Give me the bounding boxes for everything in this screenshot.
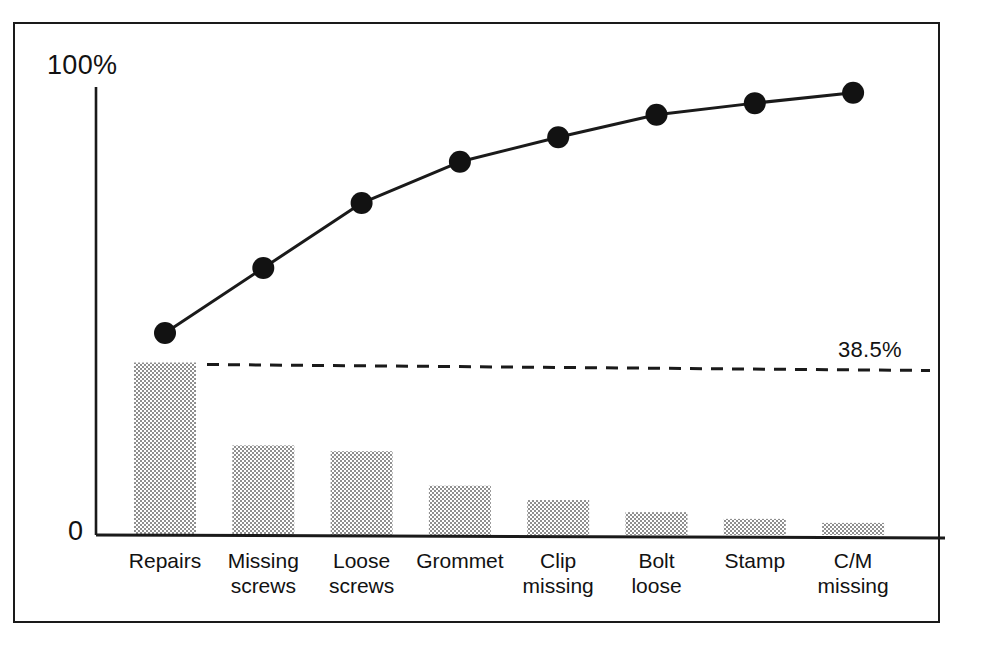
y-axis-top-label: 100% (47, 50, 117, 81)
cumulative-marker (646, 104, 668, 126)
bar (724, 519, 786, 535)
cumulative-marker (449, 151, 471, 173)
x-axis-line (96, 535, 945, 538)
cumulative-marker (252, 257, 274, 279)
bar (331, 451, 393, 535)
bar (134, 363, 196, 535)
threshold-dashed-line (207, 365, 930, 371)
cumulative-marker (744, 92, 766, 114)
bar (822, 523, 884, 535)
bar (527, 500, 589, 535)
threshold-value-label: 38.5% (838, 337, 902, 363)
bar (232, 445, 294, 535)
cumulative-marker (547, 126, 569, 148)
category-label: C/M missing (773, 548, 933, 598)
bar (429, 486, 491, 535)
cumulative-markers (154, 82, 864, 344)
bar-series (134, 363, 884, 535)
cumulative-marker (154, 322, 176, 344)
cumulative-marker (842, 82, 864, 104)
y-axis-zero-label: 0 (68, 516, 83, 547)
cumulative-marker (351, 192, 373, 214)
bar (626, 512, 688, 535)
pareto-chart-figure: 100% 0 38.5% RepairsMissing screwsLoose … (0, 0, 983, 649)
cumulative-line (165, 93, 853, 333)
